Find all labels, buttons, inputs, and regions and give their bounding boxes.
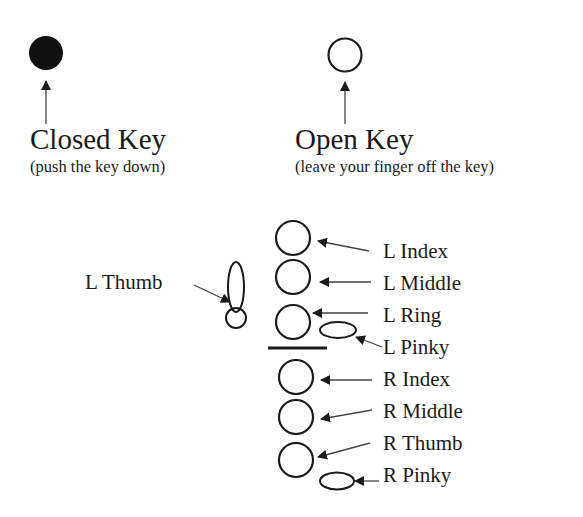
l-middle-label: L Middle [383,273,461,294]
l-thumb-arrow-icon [194,285,230,302]
r-middle-label: R Middle [383,401,463,422]
l-thumb-oval-key-icon [228,262,244,312]
open-key-open-circle-icon [329,39,362,72]
r-thumb-arrow-icon [318,443,370,457]
l-ring-label: L Ring [383,305,441,326]
l-pinky-arrow-icon [356,337,382,347]
closed-key-filled-circle-icon [29,36,63,70]
l-pinky-key-icon [320,322,356,338]
r-thumb-key-icon [279,443,313,477]
r-thumb-label: R Thumb [383,433,463,454]
r-pinky-key-icon [320,473,354,490]
l-index-label: L Index [383,241,448,262]
r-pinky-label: R Pinky [383,465,451,486]
l-pinky-label: L Pinky [383,337,449,358]
r-middle-arrow-icon [321,410,372,419]
l-index-arrow-icon [318,241,369,251]
r-middle-key-icon [279,400,313,434]
l-thumb-label: L Thumb [85,272,163,293]
open-key-subtitle: (leave your finger off the key) [295,159,494,176]
closed-key-subtitle: (push the key down) [30,159,165,176]
r-index-label: R Index [383,369,450,390]
open-key-title: Open Key [295,125,413,154]
closed-key-title: Closed Key [30,125,166,154]
l-ring-key-icon [276,305,310,339]
r-index-key-icon [279,360,313,394]
fingering-diagram [0,0,583,517]
l-middle-key-icon [276,260,310,294]
l-index-key-icon [276,221,310,255]
